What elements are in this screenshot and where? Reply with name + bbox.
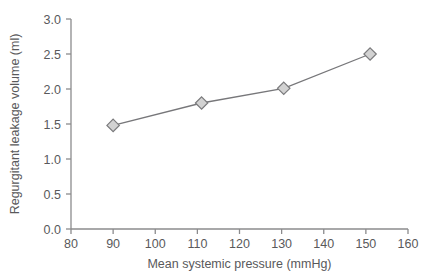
x-tick-label: 110 xyxy=(187,237,207,251)
data-point-marker xyxy=(107,119,119,131)
x-tick-label: 130 xyxy=(271,237,292,251)
y-tick-label: 2.5 xyxy=(44,48,61,62)
x-tick-label: 120 xyxy=(229,237,250,251)
data-point-marker xyxy=(195,97,207,109)
series-line xyxy=(113,54,370,125)
data-point-marker xyxy=(364,48,376,60)
x-tick-label: 100 xyxy=(145,237,166,251)
y-tick-label: 3.0 xyxy=(44,13,61,27)
x-tick-label: 160 xyxy=(398,237,419,251)
x-axis-title: Mean systemic pressure (mmHg) xyxy=(147,257,331,271)
y-tick-label: 1.0 xyxy=(44,153,61,167)
y-axis-title: Regurgitant leakage volume (ml) xyxy=(8,34,22,215)
data-point-marker xyxy=(278,82,290,94)
x-tick-label: 150 xyxy=(355,237,376,251)
y-tick-label: 0.5 xyxy=(44,188,61,202)
y-tick-label: 1.5 xyxy=(44,118,61,132)
line-chart: 0.00.51.01.52.02.53.0 809010011012013014… xyxy=(0,0,439,276)
y-tick-label: 0.0 xyxy=(44,223,61,237)
x-axis-ticks: 8090100110120130140150160 xyxy=(64,229,418,251)
x-tick-label: 80 xyxy=(64,237,78,251)
y-axis-ticks: 0.00.51.01.52.02.53.0 xyxy=(44,13,71,237)
x-tick-label: 90 xyxy=(106,237,120,251)
chart-container: 0.00.51.01.52.02.53.0 809010011012013014… xyxy=(0,0,439,276)
x-tick-label: 140 xyxy=(313,237,334,251)
y-tick-label: 2.0 xyxy=(44,83,61,97)
data-point-markers xyxy=(107,48,376,132)
